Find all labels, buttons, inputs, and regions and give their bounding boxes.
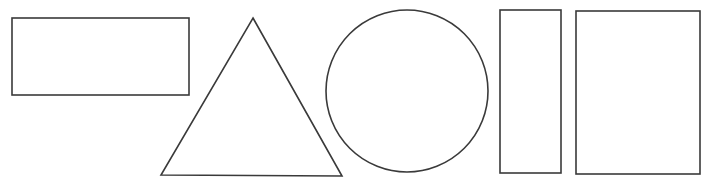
wide-rectangle-shape [12,18,189,95]
tall-rectangle-shape [500,10,561,173]
circle-shape [326,10,488,172]
large-rectangle-shape [576,11,700,174]
shapes-canvas [0,0,710,185]
